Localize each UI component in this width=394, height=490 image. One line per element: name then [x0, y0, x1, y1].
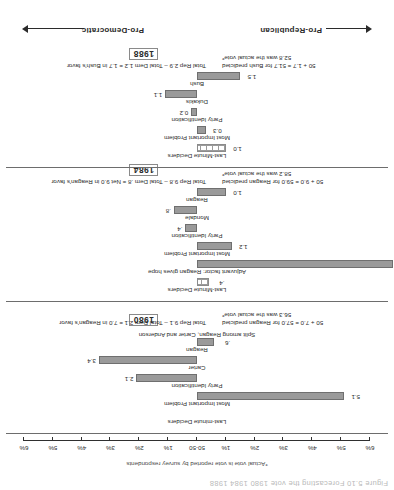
- chart-bar-value: .4: [177, 226, 182, 233]
- panel-summary-actual: 58.2 was the actual vote*: [222, 171, 370, 178]
- chart-bar-value: 5.1: [351, 394, 360, 401]
- axis-tick-label: 5%: [48, 445, 57, 452]
- figure-sheet: Figure 5.10 Forecasting the vote 1980 19…: [0, 0, 394, 490]
- chart-bar-value: .8: [166, 208, 171, 215]
- chart-bar-value: .6: [225, 340, 230, 347]
- axis-tick: [254, 437, 255, 441]
- axis-tick: [167, 437, 168, 441]
- chart-row-label: Bush: [0, 81, 394, 88]
- axis-tick: [52, 437, 53, 441]
- legend-label-pro-republican: Pro-Republican: [260, 26, 322, 35]
- axis-tick-label: 1%: [164, 445, 173, 452]
- chart-row: Adjuvant factor: Reagan gives hope6.8: [0, 258, 394, 276]
- panel-summary-total: Total Rep 9.8 – Total Dem .8 = Net 9.0 i…: [51, 179, 206, 186]
- legend-arrowhead-democratic: [22, 25, 28, 33]
- axis-tick-label: 6%: [366, 445, 375, 452]
- chart-bar-value: .4: [219, 280, 224, 287]
- panel-summary-actual: 52.8 was the actual vote*: [222, 55, 370, 62]
- chart-row-label: Party Identification: [0, 117, 394, 124]
- chart-bar: [197, 338, 214, 346]
- axis-tick-label: 2%: [250, 445, 259, 452]
- chart-bar-value: 0.3: [213, 128, 222, 135]
- axis-tick: [283, 437, 284, 441]
- legend-arrowhead-republican: [366, 25, 372, 33]
- chart-row: Most Important Problem0.3: [0, 124, 394, 142]
- chart-bar-value: 1.2: [239, 244, 248, 251]
- chart-row: Bush1.5: [0, 70, 394, 88]
- panel-summary-actual: 56.3 was the actual vote*: [222, 312, 370, 319]
- axis-tick-label: 1%: [221, 445, 230, 452]
- axis-tick-label: 3%: [106, 445, 115, 452]
- chart-row-label: Reagan: [0, 347, 394, 354]
- panel-summary-prediction: 50 + 1.7 = 51.7 for Bush predicted: [222, 63, 370, 70]
- chart-row: Most Important Problem1.2: [0, 240, 394, 258]
- axis-tick: [81, 437, 82, 441]
- chart-bar: [191, 108, 197, 116]
- chart-row-label: Adjuvant factor: Reagan gives hope: [0, 269, 394, 276]
- axis-tick-label: 5%: [337, 445, 346, 452]
- chart-bar: [197, 242, 232, 250]
- chart-bar: [197, 126, 206, 134]
- panel-divider: [6, 301, 388, 302]
- panel-divider: [6, 167, 388, 168]
- axis-tick: [23, 437, 24, 441]
- chart-row-label: Dukakis: [0, 99, 394, 106]
- chart-bar: [197, 392, 344, 400]
- chart-bar: [197, 260, 393, 268]
- chart-row: Last-Minute Deciders.4: [0, 276, 394, 294]
- figure-caption: Figure 5.10 Forecasting the vote 1980 19…: [0, 477, 394, 488]
- chart-bar: [197, 278, 209, 286]
- axis-tick: [225, 437, 226, 441]
- chart-row-label: Party Identification: [0, 233, 394, 240]
- chart-bar-value: 3.4: [87, 358, 96, 365]
- chart-row: Party Identification2.1: [0, 372, 394, 390]
- chart-row-label: Party Identification: [0, 383, 394, 390]
- chart-bar-value: 1.5: [248, 74, 257, 81]
- panel-summary-prediction: 50 + 9.0 = 59.0 for Reagan predicted: [222, 179, 370, 186]
- axis-tick: [196, 437, 197, 441]
- chart-row-label: Last-Minute Deciders: [0, 153, 394, 160]
- chart-bar-value: 1.0: [233, 190, 242, 197]
- chart-row: Mondale.8: [0, 204, 394, 222]
- legend-arrow-republican: [326, 28, 366, 29]
- axis-line: [24, 440, 370, 441]
- chart-row: Last-minute Deciders: [0, 408, 394, 426]
- chart-bar: [99, 356, 197, 364]
- panel-subnote: Split among Reagan, Carter and Anderson: [0, 332, 394, 339]
- chart-bar: [197, 72, 240, 80]
- panel-summary-total: Total Rep 2.9 – Total Dem 1.2 = 1.7 in B…: [67, 63, 206, 70]
- panel-summary-prediction: 50 + 7.0 = 57.0 for Reagan predicted: [222, 320, 370, 327]
- chart-bar: [197, 188, 226, 196]
- chart-row-label: Mondale: [0, 215, 394, 222]
- chart-row: Carter3.4: [0, 354, 394, 372]
- chart-row-label: Most Important Problem: [0, 401, 394, 408]
- chart-row-label: Last-Minute Deciders: [0, 287, 394, 294]
- chart-row-label: Reagan: [0, 197, 394, 204]
- axis-tick-label-center: 50-50: [189, 445, 205, 452]
- chart-bar: [165, 90, 197, 98]
- chart-row-label: Most Important Problem: [0, 135, 394, 142]
- panel-divider: [6, 433, 388, 434]
- chart-row-label: Most Important Problem: [0, 251, 394, 258]
- axis-tick: [110, 437, 111, 441]
- chart-bar: [136, 374, 197, 382]
- panel-year-label: 1988: [129, 48, 158, 60]
- chart-row-label: Carter: [0, 365, 394, 372]
- axis-tick-label: 4%: [308, 445, 317, 452]
- legend-label-pro-democratic: Pro-Democratic: [82, 26, 144, 35]
- axis-tick-label: 2%: [135, 445, 144, 452]
- direction-legend: Pro-Democratic Pro-Republican: [0, 4, 394, 38]
- chart-row: Dukakis1.1: [0, 88, 394, 106]
- panel-summary-total: Total Rep 9.1 – Total Dem 2.1 = 7.0 in R…: [59, 320, 206, 327]
- axis-tick: [369, 437, 370, 441]
- chart-bar-value: 2.1: [125, 376, 134, 383]
- chart-bar-value: 1.1: [154, 92, 163, 99]
- axis-tick-label: 4%: [77, 445, 86, 452]
- axis-tick: [340, 437, 341, 441]
- chart-row: Last-Minute Deciders1.0: [0, 142, 394, 160]
- chart-row: Party Identification.4: [0, 222, 394, 240]
- axis-tick: [311, 437, 312, 441]
- chart-row-label: Last-minute Deciders: [0, 419, 394, 426]
- chart-row: Most Important Problem5.1: [0, 390, 394, 408]
- axis-tick: [138, 437, 139, 441]
